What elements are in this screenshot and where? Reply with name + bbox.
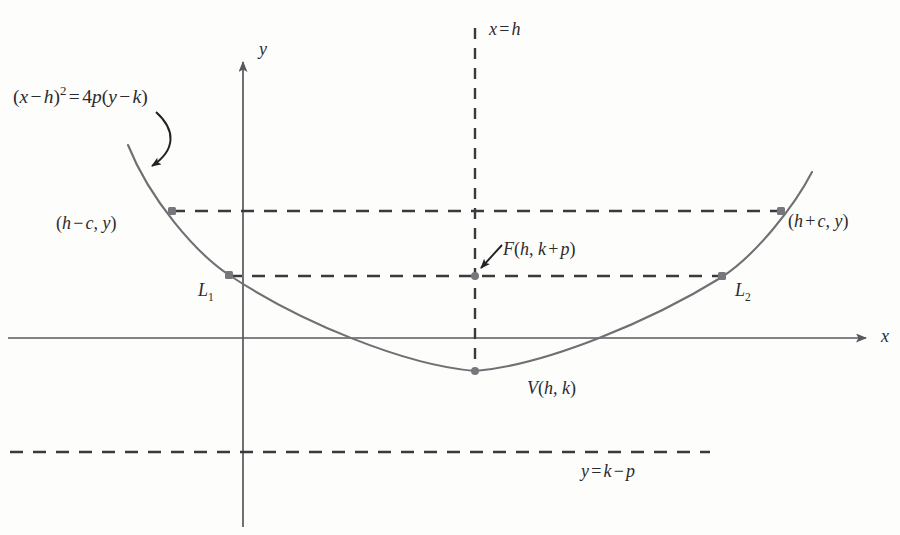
latus-left-index: 1 [208,291,214,303]
equation-coefficient: 4 [82,86,92,107]
parabola-curve-group [128,145,812,371]
point-left-minus: − [71,213,85,233]
focus-name: F [503,239,514,259]
point-latus-right [718,272,726,280]
point-right-close: ) [842,211,848,231]
directrix-equals: = [589,461,603,481]
diagram-canvas [0,0,900,535]
equation-equals: = [67,86,83,107]
axis-symmetry-equals: = [497,19,511,39]
equation-rhs-k: k [132,86,141,107]
vertex-comma: , [553,378,558,398]
axis-symmetry-rhs: h [511,19,520,39]
directrix-lhs: y [581,461,589,481]
point-left-label: (h−c, y) [56,214,116,232]
point-focus [471,272,479,280]
latus-right-index: 2 [745,291,751,303]
vertex-close: ) [570,378,576,398]
axis-of-symmetry-label: x=h [489,20,520,38]
equation-lhs-h: h [44,86,54,107]
equation-lhs-var: x [20,86,29,107]
point-right-label: (h+c, y) [788,212,848,230]
point-vertex [471,367,479,375]
parabola-curve [128,145,812,371]
latus-rectum-right-label: L2 [735,281,751,303]
equation-p: p [92,86,102,107]
focus-comma: , [529,239,534,259]
equation-exponent: 2 [60,84,66,98]
point-latus-left [225,271,233,279]
equation-lhs-minus: − [28,86,44,107]
point-left-h: h [62,213,71,233]
focus-label: F(h, k+p) [503,240,575,258]
point-left-close: ) [110,213,116,233]
axis-symmetry-lhs: x [489,19,497,39]
y-axis-label: y [259,40,267,58]
directrix-label: y=k−p [581,462,635,480]
focus-pointer-arrow [481,245,502,268]
vertex-h: h [544,378,553,398]
point-h-minus-c [168,207,176,215]
focus-close: ) [569,239,575,259]
directrix-minus: − [611,461,625,481]
latus-right-name: L [735,280,745,300]
equation-pointer-arrow [152,112,171,166]
parabola-figure: (x−h)2=4p(y−k) x=h y x (h−c, y) (h+c, y)… [0,0,900,535]
vertex-k: k [562,378,570,398]
equation-rhs-minus: − [117,86,133,107]
latus-rectum-left-label: L1 [198,281,214,303]
point-h-plus-c [777,207,785,215]
point-right-comma: , [825,211,830,231]
vertex-name: V [527,378,538,398]
parabola-equation-label: (x−h)2=4p(y−k) [13,85,148,106]
point-right-h: h [794,211,803,231]
equation-rhs-var: y [108,86,117,107]
equation-rhs-close: ) [141,86,148,107]
vertex-label: V(h, k) [527,379,576,397]
directrix-p: p [626,461,635,481]
point-right-plus: + [803,211,817,231]
focus-k: k [538,239,546,259]
annotation-arrows-group [152,112,502,268]
x-axis-label: x [881,327,889,345]
points-group [168,207,785,375]
latus-left-name: L [198,280,208,300]
focus-h: h [520,239,529,259]
focus-plus: + [546,239,560,259]
point-left-comma: , [93,213,98,233]
